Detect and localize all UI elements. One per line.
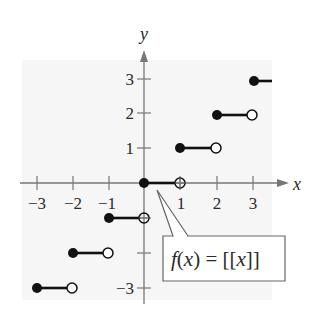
y-axis-label: y [138, 24, 148, 44]
x-tick-label: −2 [64, 194, 82, 213]
closed-dot [175, 143, 185, 153]
callout-label: f(x) = [[x]] [171, 247, 260, 271]
closed-dot [212, 110, 222, 120]
y-axis-arrow-icon [140, 50, 148, 62]
y-tick-label: −3 [116, 279, 134, 298]
x-tick-label: 1 [177, 194, 186, 213]
open-dot [247, 110, 257, 120]
chart-figure: y x −3 −2 −1 1 2 3 3 2 1 −3 [0, 0, 312, 312]
open-dot [67, 283, 77, 293]
step-function-plot: y x −3 −2 −1 1 2 3 3 2 1 −3 [0, 0, 312, 312]
y-tick-label: 1 [126, 139, 135, 158]
closed-dot [32, 283, 42, 293]
y-tick-label: 3 [126, 70, 135, 89]
closed-dot [139, 178, 149, 188]
closed-dot [104, 213, 114, 223]
y-tick-label: 2 [126, 104, 135, 123]
x-tick-label: 3 [249, 194, 258, 213]
x-tick-label: 2 [213, 194, 222, 213]
open-dot [103, 248, 113, 258]
x-axis-label: x [292, 174, 301, 194]
x-tick-label: −3 [28, 194, 46, 213]
open-dot [211, 143, 221, 153]
x-axis-arrow-icon [277, 179, 289, 187]
closed-dot [68, 248, 78, 258]
x-tick-label: −1 [98, 194, 116, 213]
closed-dot [249, 76, 259, 86]
